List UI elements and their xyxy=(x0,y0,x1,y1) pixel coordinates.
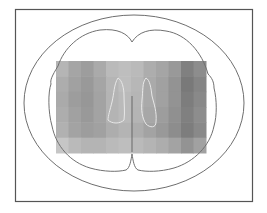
intensity-cell xyxy=(81,122,94,138)
intensity-cell xyxy=(119,107,132,123)
intensity-cell xyxy=(194,92,207,108)
intensity-cell xyxy=(181,122,194,138)
intensity-cell xyxy=(169,76,182,92)
intensity-cell xyxy=(194,76,207,92)
intensity-cell xyxy=(144,61,157,77)
intensity-cell xyxy=(69,92,82,108)
intensity-cell xyxy=(169,122,182,138)
intensity-cell xyxy=(106,122,119,138)
intensity-cell xyxy=(156,61,169,77)
intensity-cell xyxy=(56,61,69,77)
intensity-cell xyxy=(119,122,132,138)
intensity-cell xyxy=(94,76,107,92)
intensity-cell xyxy=(81,107,94,123)
intensity-cell xyxy=(144,138,157,154)
intensity-cell xyxy=(81,138,94,154)
intensity-cell xyxy=(181,107,194,123)
intensity-cell xyxy=(56,122,69,138)
intensity-cell xyxy=(56,107,69,123)
intensity-cell xyxy=(69,76,82,92)
intensity-cell xyxy=(169,107,182,123)
intensity-cell xyxy=(181,76,194,92)
intensity-cell xyxy=(119,76,132,92)
intensity-cell xyxy=(94,61,107,77)
intensity-cell xyxy=(69,122,82,138)
intensity-cell xyxy=(94,107,107,123)
brain-slice-figure xyxy=(0,0,267,213)
intensity-cell xyxy=(81,92,94,108)
intensity-cell xyxy=(119,61,132,77)
intensity-cell xyxy=(106,61,119,77)
intensity-cell xyxy=(194,122,207,138)
intensity-cell xyxy=(156,92,169,108)
intensity-cell xyxy=(194,107,207,123)
intensity-cell xyxy=(131,122,144,138)
intensity-map xyxy=(56,61,207,154)
intensity-cell xyxy=(69,61,82,77)
intensity-cell xyxy=(169,92,182,108)
intensity-cell xyxy=(156,138,169,154)
intensity-cell xyxy=(69,138,82,154)
intensity-cell xyxy=(181,92,194,108)
intensity-cell xyxy=(106,138,119,154)
intensity-cell xyxy=(169,138,182,154)
intensity-cell xyxy=(56,76,69,92)
intensity-cell xyxy=(156,122,169,138)
intensity-cell xyxy=(131,61,144,77)
intensity-cell xyxy=(144,107,157,123)
intensity-cell xyxy=(69,107,82,123)
intensity-cell xyxy=(131,76,144,92)
intensity-cell xyxy=(81,61,94,77)
intensity-cell xyxy=(156,107,169,123)
intensity-cell xyxy=(156,76,169,92)
intensity-cell xyxy=(56,92,69,108)
intensity-cell xyxy=(94,92,107,108)
intensity-cell xyxy=(181,61,194,77)
intensity-cell xyxy=(169,61,182,77)
intensity-cell xyxy=(56,138,69,154)
intensity-cell xyxy=(94,138,107,154)
intensity-cell xyxy=(194,138,207,154)
intensity-cell xyxy=(81,76,94,92)
intensity-cell xyxy=(131,138,144,154)
intensity-cell xyxy=(181,138,194,154)
intensity-cell xyxy=(144,122,157,138)
intensity-cell xyxy=(119,92,132,108)
intensity-cell xyxy=(94,122,107,138)
intensity-cell xyxy=(119,138,132,154)
